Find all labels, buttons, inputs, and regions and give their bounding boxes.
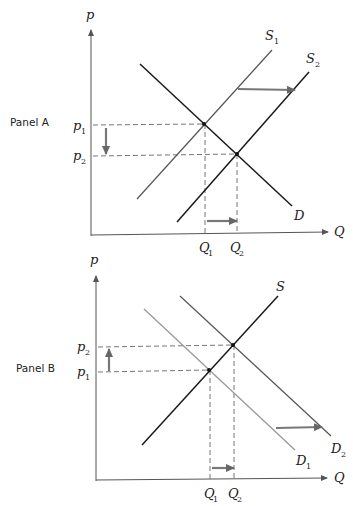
svg-text:1: 1	[81, 127, 86, 136]
label-s2: S 2	[306, 51, 320, 69]
p2-guide	[98, 345, 233, 347]
svg-text:2: 2	[315, 60, 320, 69]
label-q1: Q 1	[204, 486, 218, 504]
label-q2: Q 2	[228, 486, 242, 504]
svg-text:2: 2	[81, 157, 86, 166]
svg-text:2: 2	[341, 450, 346, 459]
label-s1: S 1	[265, 28, 279, 46]
demand-curve-d1	[144, 309, 295, 450]
panel-b: Panel B p Q S D 1 D 2 p	[16, 252, 346, 504]
svg-text:1: 1	[306, 462, 311, 471]
svg-text:1: 1	[213, 495, 218, 504]
demand-shift-arrow	[276, 427, 322, 428]
equilibrium-point-1	[207, 368, 211, 372]
svg-text:2: 2	[237, 495, 242, 504]
price-axis-label: p	[90, 252, 99, 267]
panel-b-label: Panel B	[16, 362, 55, 374]
quantity-axis-label: Q	[334, 470, 345, 485]
label-p2: p 2	[73, 148, 86, 166]
svg-text:2: 2	[85, 348, 90, 357]
label-p1: p 1	[77, 364, 90, 382]
label-q1: Q 1	[199, 240, 213, 258]
svg-text:S: S	[306, 51, 315, 66]
p2-guide	[93, 154, 237, 156]
label-s: S	[276, 279, 285, 294]
panel-a: Panel A p Q S 1 S 2 D p	[10, 7, 345, 258]
supply-curve-s2	[177, 72, 309, 222]
supply-demand-diagram: Panel A p Q S 1 S 2 D p	[0, 0, 353, 506]
label-d2: D 2	[330, 441, 346, 459]
label-p2: p 2	[77, 339, 90, 357]
label-d1: D 1	[295, 453, 311, 471]
equilibrium-point-2	[231, 343, 235, 347]
p1-guide	[93, 124, 204, 125]
demand-curve-d	[140, 64, 292, 206]
price-axis-label: p	[86, 7, 95, 22]
quantity-axis-label: Q	[334, 224, 345, 239]
label-p1: p 1	[73, 118, 86, 136]
supply-shift-arrow	[238, 89, 295, 90]
svg-text:1: 1	[208, 249, 213, 258]
demand-curve-d2	[180, 296, 331, 436]
label-d: D	[293, 208, 305, 223]
p1-guide	[98, 370, 209, 372]
equilibrium-point-1	[202, 122, 206, 126]
label-q2: Q 2	[230, 240, 244, 258]
svg-text:1: 1	[85, 373, 90, 382]
quantity-axis	[96, 478, 327, 480]
svg-text:1: 1	[274, 37, 279, 46]
quantity-axis	[91, 232, 328, 235]
equilibrium-point-2	[235, 152, 239, 156]
panel-a-label: Panel A	[10, 116, 50, 128]
svg-text:2: 2	[239, 249, 244, 258]
svg-text:S: S	[265, 28, 274, 43]
